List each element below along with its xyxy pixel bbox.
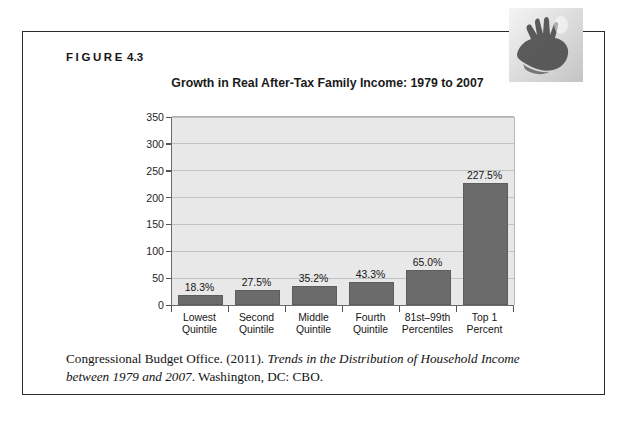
y-axis-tick-label: 100 [126, 245, 164, 257]
x-axis-tick-mark [456, 306, 457, 312]
y-axis-tick-mark [166, 278, 171, 279]
x-axis-category-label: Top 1Percent [456, 312, 513, 337]
bar [463, 183, 509, 305]
y-axis-tick-mark [166, 170, 171, 171]
x-axis-tick-mark [513, 306, 514, 312]
figure-frame: FIGURE4.3 Growth in Real After-Tax Famil… [22, 31, 605, 395]
citation-part1: Congressional Budget Office. (2011). [66, 351, 267, 366]
bar [178, 295, 224, 305]
x-axis-tick-mark [399, 306, 400, 312]
bar-chart: 05010015020025030035018.3%LowestQuintile… [126, 112, 546, 342]
figure-label-number: 4.3 [127, 51, 143, 63]
bar-value-label: 43.3% [342, 269, 399, 280]
hand-silhouette-graphic [509, 8, 583, 82]
x-axis-category-label: FourthQuintile [342, 312, 399, 337]
x-axis-category-line: Quintile [171, 324, 228, 336]
bar-value-label: 18.3% [171, 282, 228, 293]
x-axis-tick-mark [285, 306, 286, 312]
y-axis-tick-label: 150 [126, 218, 164, 230]
x-axis-category-line: Quintile [228, 324, 285, 336]
gridline [172, 143, 514, 144]
bar-value-label: 35.2% [285, 273, 342, 284]
x-axis-category-label: SecondQuintile [228, 312, 285, 337]
gridline [172, 117, 514, 118]
x-axis-tick-mark [228, 306, 229, 312]
plot-right-border [514, 117, 515, 305]
bar-value-label: 65.0% [399, 257, 456, 268]
x-axis-category-line: Quintile [285, 324, 342, 336]
citation: Congressional Budget Office. (2011). Tre… [66, 350, 566, 385]
x-axis-category-line: Top 1 [456, 312, 513, 324]
y-axis-tick-mark [166, 224, 171, 225]
x-axis-category-line: Second [228, 312, 285, 324]
citation-part2: . Washington, DC: CBO. [192, 369, 323, 384]
y-axis-tick-label: 250 [126, 165, 164, 177]
y-axis-tick-mark [166, 251, 171, 252]
y-axis-tick-label: 350 [126, 111, 164, 123]
y-axis-tick-mark [166, 143, 171, 144]
figure-label-word: FIGURE [66, 51, 125, 63]
bar [235, 290, 281, 305]
y-axis-tick-mark [166, 197, 171, 198]
bar [349, 282, 395, 305]
x-axis-category-line: Quintile [342, 324, 399, 336]
x-axis-category-line: 81st–99th [399, 312, 456, 324]
x-axis-category-line: Middle [285, 312, 342, 324]
x-axis-category-line: Percent [456, 324, 513, 336]
y-axis-tick-label: 300 [126, 138, 164, 150]
x-axis-category-line: Lowest [171, 312, 228, 324]
bar-value-label: 27.5% [228, 277, 285, 288]
x-axis-tick-mark [171, 306, 172, 312]
bar [292, 286, 338, 305]
x-axis-category-label: 81st–99thPercentiles [399, 312, 456, 337]
bar-value-label: 227.5% [456, 170, 513, 181]
y-axis-tick-label: 200 [126, 192, 164, 204]
y-axis-tick-label: 0 [126, 299, 164, 311]
figure-label: FIGURE4.3 [66, 51, 143, 63]
y-axis-tick-label: 50 [126, 272, 164, 284]
x-axis-category-label: MiddleQuintile [285, 312, 342, 337]
figure-page: FIGURE4.3 Growth in Real After-Tax Famil… [0, 0, 637, 423]
x-axis-tick-mark [342, 306, 343, 312]
y-axis-tick-mark [166, 117, 171, 118]
x-axis-category-line: Percentiles [399, 324, 456, 336]
bar [406, 270, 452, 305]
x-axis-category-label: LowestQuintile [171, 312, 228, 337]
x-axis-category-line: Fourth [342, 312, 399, 324]
